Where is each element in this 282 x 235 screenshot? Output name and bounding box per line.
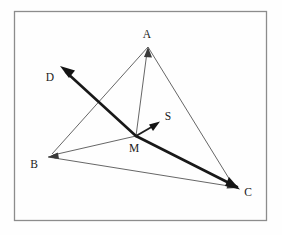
label-point-m: M: [129, 142, 139, 154]
figure-border: [15, 12, 267, 221]
label-vector-s: S: [165, 110, 171, 122]
diagram-canvas: A B C D M S: [0, 0, 282, 235]
label-point-d: D: [46, 71, 54, 83]
label-point-b: B: [30, 158, 38, 170]
geometry-figure: A B C D M S: [0, 0, 282, 235]
label-point-a: A: [143, 28, 152, 40]
label-point-c: C: [244, 186, 252, 198]
